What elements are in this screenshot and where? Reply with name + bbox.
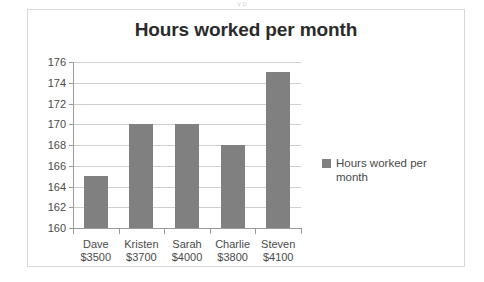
- x-axis-tick: [164, 229, 165, 234]
- y-axis-tick-label: 170: [32, 119, 66, 130]
- x-axis-tick: [301, 229, 302, 234]
- legend-item: Hours worked per month: [322, 156, 452, 184]
- y-axis-tick-label: 164: [32, 182, 66, 193]
- bar-kristen[interactable]: [129, 124, 153, 228]
- x-label-name: Dave: [73, 238, 119, 251]
- x-axis-line: [73, 228, 302, 229]
- bar-charlie[interactable]: [221, 145, 245, 228]
- y-axis-tick-label: 168: [32, 140, 66, 151]
- x-axis-tick-label: Charlie$3800: [210, 238, 256, 264]
- x-label-amount: $4100: [255, 251, 301, 264]
- y-axis-tick-label: 172: [32, 99, 66, 110]
- y-axis-tick-label: 174: [32, 78, 66, 89]
- x-axis-tick: [73, 229, 74, 234]
- x-axis-tick-label: Kristen$3700: [119, 238, 165, 264]
- x-label-name: Kristen: [119, 238, 165, 251]
- bar-dave[interactable]: [84, 176, 108, 228]
- y-axis-labels: 160162164166168170172174176: [28, 62, 66, 228]
- x-label-name: Steven: [255, 238, 301, 251]
- x-label-name: Sarah: [164, 238, 210, 251]
- y-axis-tick-label: 162: [32, 202, 66, 213]
- x-axis-tick-label: Dave$3500: [73, 238, 119, 264]
- y-axis-tick-label: 160: [32, 223, 66, 234]
- plot-wrapper: 160162164166168170172174176 Dave$3500Kri…: [28, 10, 466, 268]
- y-axis-tick-label: 166: [32, 161, 66, 172]
- scan-top-artifact: y p: [0, 0, 484, 7]
- x-label-amount: $4000: [164, 251, 210, 264]
- x-label-amount: $3500: [73, 251, 119, 264]
- chart-legend: Hours worked per month: [322, 156, 452, 184]
- legend-color-swatch: [322, 159, 331, 168]
- x-axis-tick: [255, 229, 256, 234]
- y-axis-tick-label: 176: [32, 57, 66, 68]
- chart-container: Hours worked per month 16016216416616817…: [27, 9, 465, 267]
- x-label-name: Charlie: [210, 238, 256, 251]
- x-axis-tick: [210, 229, 211, 234]
- plot-area: [73, 62, 301, 228]
- x-axis-tick: [119, 229, 120, 234]
- x-label-amount: $3800: [210, 251, 256, 264]
- x-axis-tick-label: Sarah$4000: [164, 238, 210, 264]
- bar-steven[interactable]: [266, 72, 290, 228]
- x-axis-tick-label: Steven$4100: [255, 238, 301, 264]
- bar-sarah[interactable]: [175, 124, 199, 228]
- legend-item-label: Hours worked per month: [336, 156, 444, 184]
- x-label-amount: $3700: [119, 251, 165, 264]
